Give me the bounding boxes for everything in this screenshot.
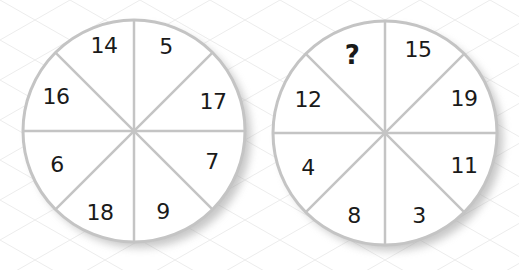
unknown-value-label: ? bbox=[345, 42, 360, 68]
segment-value: 4 bbox=[301, 157, 315, 179]
segment-value: 8 bbox=[347, 205, 361, 227]
segment-value: 15 bbox=[405, 39, 432, 61]
segment-value: 19 bbox=[451, 88, 478, 110]
segment-value: 3 bbox=[412, 205, 426, 227]
segment-value: 11 bbox=[451, 155, 478, 177]
segment-value: 12 bbox=[295, 89, 322, 111]
